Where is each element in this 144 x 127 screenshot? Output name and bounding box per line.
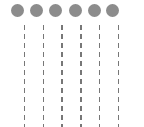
dashed-line-3: [61, 25, 63, 127]
dashed-line-2: [43, 25, 45, 127]
circle-node-5: [88, 4, 101, 17]
circle-node-4: [69, 4, 82, 17]
dashed-line-6: [118, 25, 120, 127]
circle-node-1: [11, 4, 24, 17]
circle-node-2: [30, 4, 43, 17]
dashed-line-5: [99, 25, 101, 127]
dashed-line-4: [80, 25, 82, 127]
circle-node-3: [49, 4, 62, 17]
dashed-line-1: [24, 25, 26, 127]
circle-node-6: [106, 4, 119, 17]
